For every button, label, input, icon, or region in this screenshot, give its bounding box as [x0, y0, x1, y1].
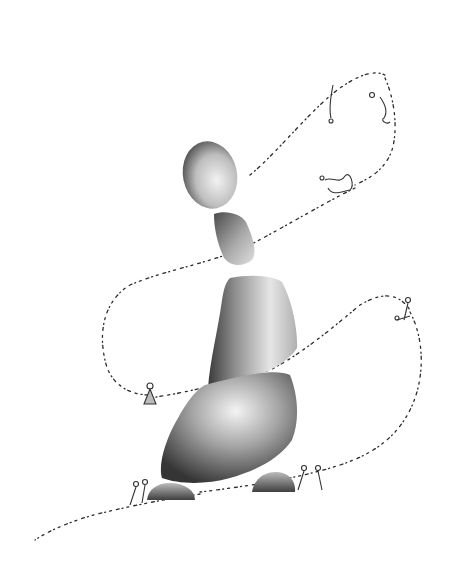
- figures-cluster: [320, 175, 352, 193]
- figure-left: [144, 383, 156, 404]
- illustration-canvas: [0, 0, 465, 582]
- stick-figure-tall: [329, 85, 333, 123]
- top-oval-stone: [177, 136, 244, 214]
- small-stone: [214, 212, 254, 265]
- left-pebble: [147, 483, 195, 500]
- figure-right-loop: [395, 298, 411, 321]
- figure-top-right: [370, 93, 391, 123]
- figures-bottom-right: [298, 466, 322, 491]
- right-pebble: [252, 472, 295, 492]
- large-base-stone: [161, 372, 297, 483]
- figures-bottom-left: [130, 480, 148, 506]
- stone-stack-illustration: [0, 0, 465, 582]
- middle-stone: [208, 276, 297, 388]
